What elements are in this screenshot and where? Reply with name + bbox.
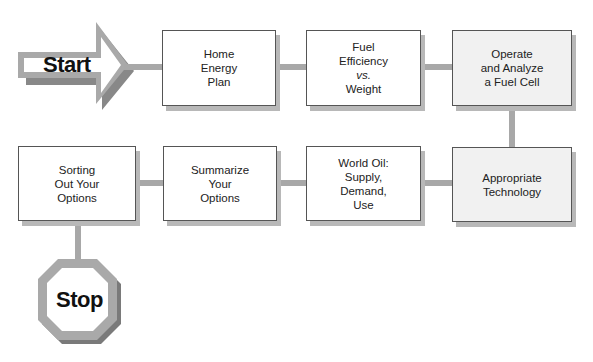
step-text: Efficiency	[339, 54, 388, 68]
step-text: and Analyze	[481, 61, 544, 75]
step-home-energy-plan: HomeEnergyPlan	[162, 30, 276, 106]
step-text: Demand,	[338, 184, 388, 198]
connector-home-fuel	[279, 64, 306, 70]
step-text: Technology	[482, 185, 541, 199]
step-text: World Oil:	[338, 156, 388, 170]
step-summarize: SummarizeYourOptions	[163, 146, 277, 221]
step-world-oil: World Oil:Supply,Demand,Use	[306, 146, 421, 221]
step-text: Appropriate	[482, 171, 541, 185]
step-sorting: SortingOut YourOptions	[18, 146, 136, 221]
step-text: Supply,	[338, 170, 388, 184]
step-text: a Fuel Cell	[481, 75, 544, 89]
step-fuel-cell: Operateand Analyzea Fuel Cell	[452, 30, 572, 106]
step-text: Options	[191, 191, 249, 205]
step-fuel-efficiency: FuelEfficiencyvs.Weight	[306, 30, 421, 106]
step-text: Out Your	[55, 177, 100, 191]
connector-start-home	[124, 64, 162, 70]
step-text: Your	[191, 177, 249, 191]
step-text: Plan	[201, 75, 237, 89]
step-text: Weight	[339, 82, 388, 96]
connector-summarize-sorting	[139, 180, 163, 186]
step-appropriate-technology: AppropriateTechnology	[452, 147, 572, 222]
step-text: Home	[201, 47, 237, 61]
step-text: Operate	[481, 47, 544, 61]
step-text: vs.	[339, 68, 388, 82]
step-text: Sorting	[55, 163, 100, 177]
step-text: Summarize	[191, 163, 249, 177]
step-text: Fuel	[339, 40, 388, 54]
connector-fuel-cell	[424, 64, 452, 70]
step-text: Use	[338, 198, 388, 212]
start-label: Start	[43, 52, 91, 78]
connector-apptech-oil	[424, 180, 452, 186]
step-text: Energy	[201, 61, 237, 75]
connector-cell-apptech	[509, 109, 515, 147]
step-text: Options	[55, 191, 100, 205]
connector-sorting-stop	[75, 225, 81, 263]
stop-label: Stop	[56, 287, 103, 313]
connector-oil-summarize	[280, 180, 306, 186]
